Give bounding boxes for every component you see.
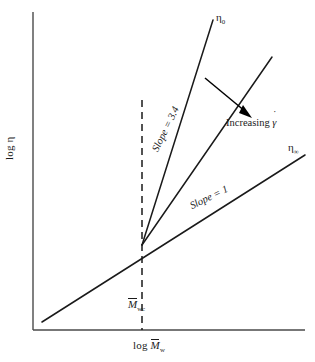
curve-eta-zero-slope-3-4 — [142, 20, 213, 245]
viscosity-molecular-weight-figure: log η log Mw η0 η∞ Slope = 3.4 Slope = 1… — [0, 0, 315, 362]
increasing-shear-rate-text: Increasing — [226, 117, 272, 128]
y-axis-label: log η — [4, 136, 15, 160]
eta-zero-subscript: 0 — [222, 18, 225, 25]
x-axis-label-prefix: log — [133, 339, 151, 351]
increasing-shear-rate-arrow-shaft — [205, 78, 246, 112]
gamma-dot-symbol: γ — [272, 118, 276, 129]
curve-eta-infinity-slope-1 — [42, 155, 305, 322]
eta-infinity-subscript: ∞ — [294, 148, 299, 155]
plot-canvas — [0, 0, 315, 362]
eta-zero-label: η0 — [216, 12, 225, 23]
mwc-subscript: wc — [137, 305, 145, 312]
x-axis-label: log Mw — [133, 340, 165, 351]
x-axis-label-subscript: w — [160, 346, 165, 353]
x-axis-label-symbol: M — [151, 340, 160, 351]
increasing-shear-rate-label: Increasing γ — [226, 118, 277, 129]
critical-molecular-weight-label: Mwc — [128, 299, 145, 310]
eta-infinity-label: η∞ — [288, 142, 299, 153]
mwc-symbol: M — [128, 299, 137, 310]
